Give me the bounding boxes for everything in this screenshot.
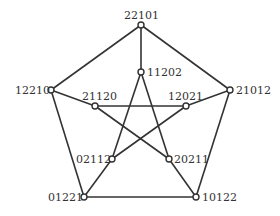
edge [141,25,230,90]
node-label-22101: 22101 [124,10,159,21]
node-11202 [138,69,144,75]
node-label-11202: 11202 [147,67,182,78]
node-22101 [138,22,144,28]
node-label-12021: 12021 [168,91,203,102]
node-label-21012: 21012 [236,85,271,96]
node-label-21120: 21120 [82,91,117,102]
edge [51,90,84,197]
edge [112,72,141,159]
node-21012 [227,87,233,93]
graph-canvas [0,0,280,216]
edge [196,90,230,197]
node-label-12210: 12210 [15,85,50,96]
edge [95,106,169,159]
node-label-10122: 10122 [202,192,237,203]
edge [141,72,169,159]
node-label-02112: 02112 [76,154,111,165]
node-label-20211: 20211 [174,154,209,165]
node-21120 [92,103,98,109]
edge [112,106,186,159]
node-10122 [193,194,199,200]
node-20211 [166,156,172,162]
edge [51,25,141,90]
petersen-graph-diagram: 22101 21012 10122 01221 12210 11202 1202… [0,0,280,216]
node-12021 [183,103,189,109]
node-label-01221: 01221 [48,192,83,203]
